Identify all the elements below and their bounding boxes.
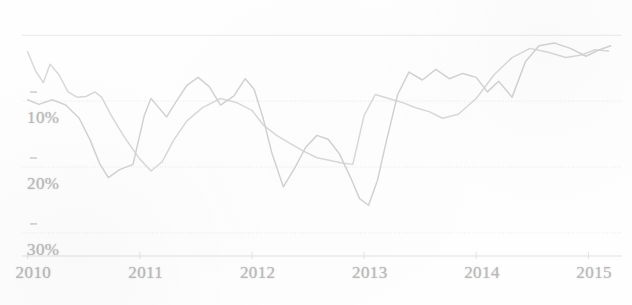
y-tick-label-20: 20%: [27, 175, 59, 192]
x-tick-label-2014: 2014: [464, 264, 500, 281]
gridlines-group: [22, 35, 622, 256]
chart-container: 10% 20% 30% 2010 2011 2012 2013 2014 201…: [0, 0, 632, 305]
series-line: [28, 43, 611, 205]
series-line: [28, 48, 609, 171]
x-tick-label-2015: 2015: [576, 264, 612, 281]
x-tick-label-2012: 2012: [240, 264, 276, 281]
x-tick-label-2013: 2013: [352, 264, 388, 281]
x-tick-label-2010: 2010: [16, 264, 52, 281]
x-tick-label-2011: 2011: [128, 264, 163, 281]
y-tick-label-10: 10%: [27, 109, 59, 126]
y-tick-label-30: 30%: [27, 241, 59, 258]
series-lines-group: [28, 43, 611, 205]
chart-plot-area: [0, 0, 632, 305]
